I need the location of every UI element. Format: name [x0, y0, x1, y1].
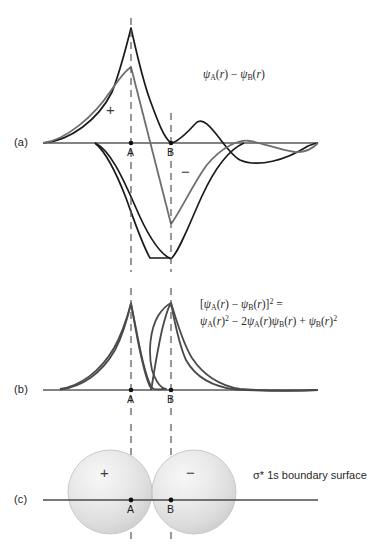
panel-c-nucleus-b-dot	[169, 498, 174, 503]
panel-a-curve-difference	[43, 28, 171, 143]
panel-c-label: (c)	[14, 493, 27, 505]
panel-b-point-b-label: B	[167, 393, 174, 405]
panel-c-point-b-label: B	[167, 503, 174, 515]
panel-a-minus-sign: −	[181, 163, 190, 180]
panel-b-point-a-label: A	[127, 393, 134, 405]
panel-a-nucleus-b-dot	[169, 141, 174, 146]
panel-c-sphere-negative	[152, 450, 236, 534]
panel-a-point-a-label: A	[127, 146, 134, 158]
panel-a-curve-psi-a-descend	[131, 67, 171, 224]
panel-c-nucleus-a-dot	[129, 498, 134, 503]
exponent-b2: 2	[225, 314, 229, 323]
panel-a-curve-difference-lower	[171, 121, 318, 163]
equals-sign-b1: =	[276, 298, 283, 310]
panel-a-curve-lower-left	[95, 143, 171, 259]
plus-sign-b1: +	[299, 315, 306, 327]
panel-a-curve-lower-right	[171, 143, 244, 259]
panel-c-minus-sign: −	[186, 464, 195, 481]
psi-symbol-b4: ψ	[247, 315, 254, 327]
panel-b-formula-line2: ψA(r)2 − 2ψA(r)ψB(r) + ψB(r)2	[200, 310, 337, 333]
panel-b-nucleus-a-dot	[129, 388, 134, 393]
panel-a-point-b-label: B	[167, 146, 174, 158]
panel-c-graphics	[43, 424, 318, 540]
paren-close-b1: )	[225, 298, 229, 310]
minus-sign-a1: −	[231, 68, 238, 80]
panel-c-caption: σ* 1s boundary surface	[253, 469, 367, 481]
panel-a-formula: ψA(r) − ψB(r)	[203, 66, 265, 86]
panel-a-nucleus-a-dot	[129, 141, 134, 146]
paren-close-b5: )	[293, 315, 297, 327]
panel-b-label: (b)	[14, 383, 28, 395]
panel-a-graphics	[43, 18, 318, 272]
paren-close-a1: )	[224, 68, 228, 80]
paren-close-a2: )	[261, 68, 265, 80]
panel-a-plus-sign: +	[106, 101, 115, 118]
psi-symbol-b1: ψ	[204, 298, 211, 310]
panel-c-point-a-label: A	[127, 503, 134, 515]
minus-sign-b2: −	[232, 315, 239, 327]
panel-a-curve-psi-a	[43, 67, 131, 143]
exponent-b1: 2	[269, 297, 273, 306]
panel-b-nucleus-b-dot	[169, 388, 174, 393]
panel-a-label: (a)	[14, 136, 28, 148]
panel-c-sphere-positive	[68, 450, 152, 534]
figure-container: (a) ψA(r) − ψB(r) + − A B (b) [ψA(r) − ψ…	[0, 0, 382, 548]
exponent-b3: 2	[333, 314, 337, 323]
minus-sign-b1: −	[232, 298, 239, 310]
panel-c-plus-sign: +	[100, 464, 109, 481]
psi-symbol-b5: ψ	[272, 315, 279, 327]
psi-symbol-b6: ψ	[309, 315, 316, 327]
